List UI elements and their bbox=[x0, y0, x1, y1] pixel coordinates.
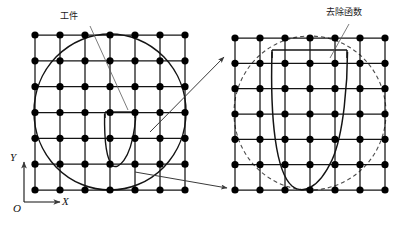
arrow-upper bbox=[150, 57, 224, 132]
workpiece-leader-line bbox=[90, 26, 128, 110]
removal-function-label: 去除函数 bbox=[326, 8, 362, 17]
arrow-lower bbox=[135, 172, 227, 188]
y-axis-label: Y bbox=[10, 152, 16, 163]
coordinate-axes bbox=[24, 162, 60, 202]
diagram-canvas bbox=[0, 0, 397, 239]
figure-container: 工件 去除函数 Y X O bbox=[0, 0, 397, 239]
right-panel bbox=[231, 24, 388, 194]
origin-label: O bbox=[13, 203, 21, 214]
transition-arrows bbox=[135, 57, 227, 188]
left-panel bbox=[31, 26, 188, 194]
workpiece-label: 工件 bbox=[60, 12, 78, 21]
x-axis-label: X bbox=[62, 196, 69, 207]
removal-function-leader-line bbox=[330, 24, 349, 58]
